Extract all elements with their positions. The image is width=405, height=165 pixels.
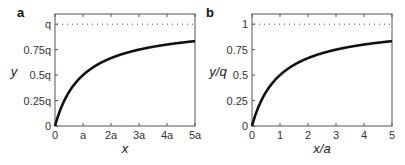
y-tick-label: 1 — [242, 18, 248, 30]
y-tick-label: 0.75q — [23, 44, 51, 56]
curve-b — [252, 41, 392, 126]
y-ticks-a: 00.25q0.5q0.75qq — [23, 18, 58, 132]
y-axis-label-b: y/q — [208, 64, 227, 79]
axes-box-a — [55, 14, 195, 126]
y-tick-label: 0.25 — [227, 95, 248, 107]
x-axis-label-b: x/a — [312, 141, 330, 156]
axes-box-b — [252, 14, 392, 126]
x-tick-label: 1 — [277, 129, 283, 141]
y-axis-label-a: y — [10, 64, 19, 79]
x-ticks-a: 0a2a3a4a5a — [52, 14, 202, 141]
x-tick-label: a — [80, 129, 87, 141]
x-tick-label: 0 — [249, 129, 255, 141]
y-tick-label: q — [45, 18, 51, 30]
x-tick-label: 5a — [189, 129, 202, 141]
x-tick-label: 4 — [361, 129, 367, 141]
y-tick-label: 0 — [242, 120, 248, 132]
y-tick-label: 0.5q — [30, 69, 51, 81]
panel-a: a 00.25q0.5q0.75qq 0a2a3a4a5a x y — [10, 5, 202, 156]
panel-label-a: a — [17, 5, 25, 20]
x-axis-label-a: x — [121, 141, 129, 156]
panel-label-b: b — [206, 5, 214, 20]
panel-b: b 00.250.50.751 012345 x/a y/q — [206, 5, 395, 156]
x-tick-label: 4a — [161, 129, 174, 141]
figure: a 00.25q0.5q0.75qq 0a2a3a4a5a x y b 00.2… — [0, 0, 405, 165]
x-tick-label: 0 — [52, 129, 58, 141]
x-ticks-b: 012345 — [249, 14, 395, 141]
y-ticks-b: 00.250.50.751 — [227, 18, 255, 132]
y-tick-label: 0 — [45, 120, 51, 132]
x-tick-label: 3 — [333, 129, 339, 141]
x-tick-label: 5 — [389, 129, 395, 141]
y-tick-label: 0.75 — [227, 44, 248, 56]
y-tick-label: 0.5 — [233, 69, 248, 81]
x-tick-label: 2 — [305, 129, 311, 141]
curve-a — [55, 41, 195, 126]
x-tick-label: 2a — [105, 129, 118, 141]
y-tick-label: 0.25q — [23, 95, 51, 107]
x-tick-label: 3a — [133, 129, 146, 141]
